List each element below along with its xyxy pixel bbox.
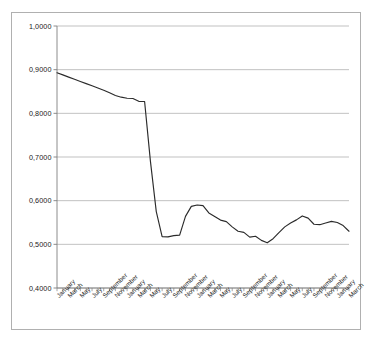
chart-figure: 1,00000,90000,80000,70000,60000,50000,40… (0, 0, 373, 343)
x-axis-ticks (57, 288, 349, 291)
y-axis-ticks (54, 26, 58, 288)
y-axis-tick-label: 0,8000 (16, 109, 52, 118)
y-axis-tick-label: 1,0000 (16, 22, 52, 31)
y-axis-tick-label: 0,7000 (16, 153, 52, 162)
y-axis-tick-label: 0,9000 (16, 65, 52, 74)
y-axis-tick-label: 0,4000 (16, 284, 52, 293)
y-axis-tick-label: 0,5000 (16, 240, 52, 249)
line-chart-plot (0, 0, 373, 343)
data-series-line (57, 73, 349, 243)
gridlines (57, 26, 349, 288)
y-axis-tick-label: 0,6000 (16, 196, 52, 205)
